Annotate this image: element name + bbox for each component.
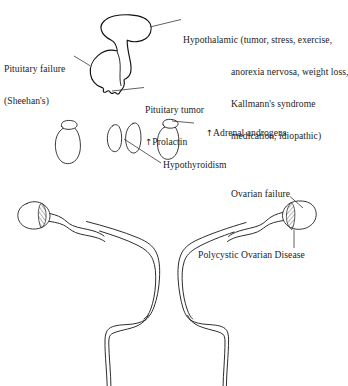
fallopian-tube-right-upper — [229, 211, 289, 237]
label-polycystic-ovarian-disease: Polycystic Ovarian Disease — [198, 250, 305, 261]
up-arrow-icon: ↑ — [206, 128, 213, 138]
uterus-inner-cavity-right — [182, 232, 234, 319]
label-hypothalamic-line3: Kallmann's syndrome — [183, 99, 348, 110]
uterus-group — [18, 197, 316, 386]
fallopian-tube-right-lower — [228, 220, 291, 242]
label-adrenal-androgens: ↑Adrenal androgens — [196, 117, 287, 149]
uterus-outer-wall — [87, 222, 160, 321]
label-hypothalamic-lead: Hypothalamic — [183, 34, 238, 45]
kidney-left-shape — [55, 126, 80, 164]
label-pituitary-failure-line1: Pituitary failure — [4, 64, 65, 75]
thyroid-lobe-left-shape — [107, 125, 121, 152]
label-pituitary-failure: Pituitary failure (Sheehan's) — [4, 43, 65, 128]
label-hypothyroidism: Hypothyroidism — [163, 160, 227, 171]
label-pituitary-failure-line2: (Sheehan's) — [4, 96, 65, 107]
leader-pituitary-failure — [74, 56, 91, 66]
cervical-canal-left — [109, 315, 149, 386]
label-hypothalamic-line2: anorexia nervosa, weight loss, — [183, 67, 348, 78]
label-pituitary-tumor-line1: Pituitary tumor — [145, 105, 204, 116]
label-ovarian-failure: Ovarian failure — [231, 189, 290, 200]
label-adrenal-androgens-text: Adrenal androgens — [213, 127, 287, 138]
label-hypothalamic-line1: (tumor, stress, exercise, — [240, 34, 332, 45]
label-prolactin: Prolactin — [152, 136, 187, 147]
hypothalamus-pituitary-group — [74, 15, 181, 94]
uterus-inner-cavity-left — [100, 231, 156, 319]
leader-hypothalamic — [150, 20, 181, 28]
